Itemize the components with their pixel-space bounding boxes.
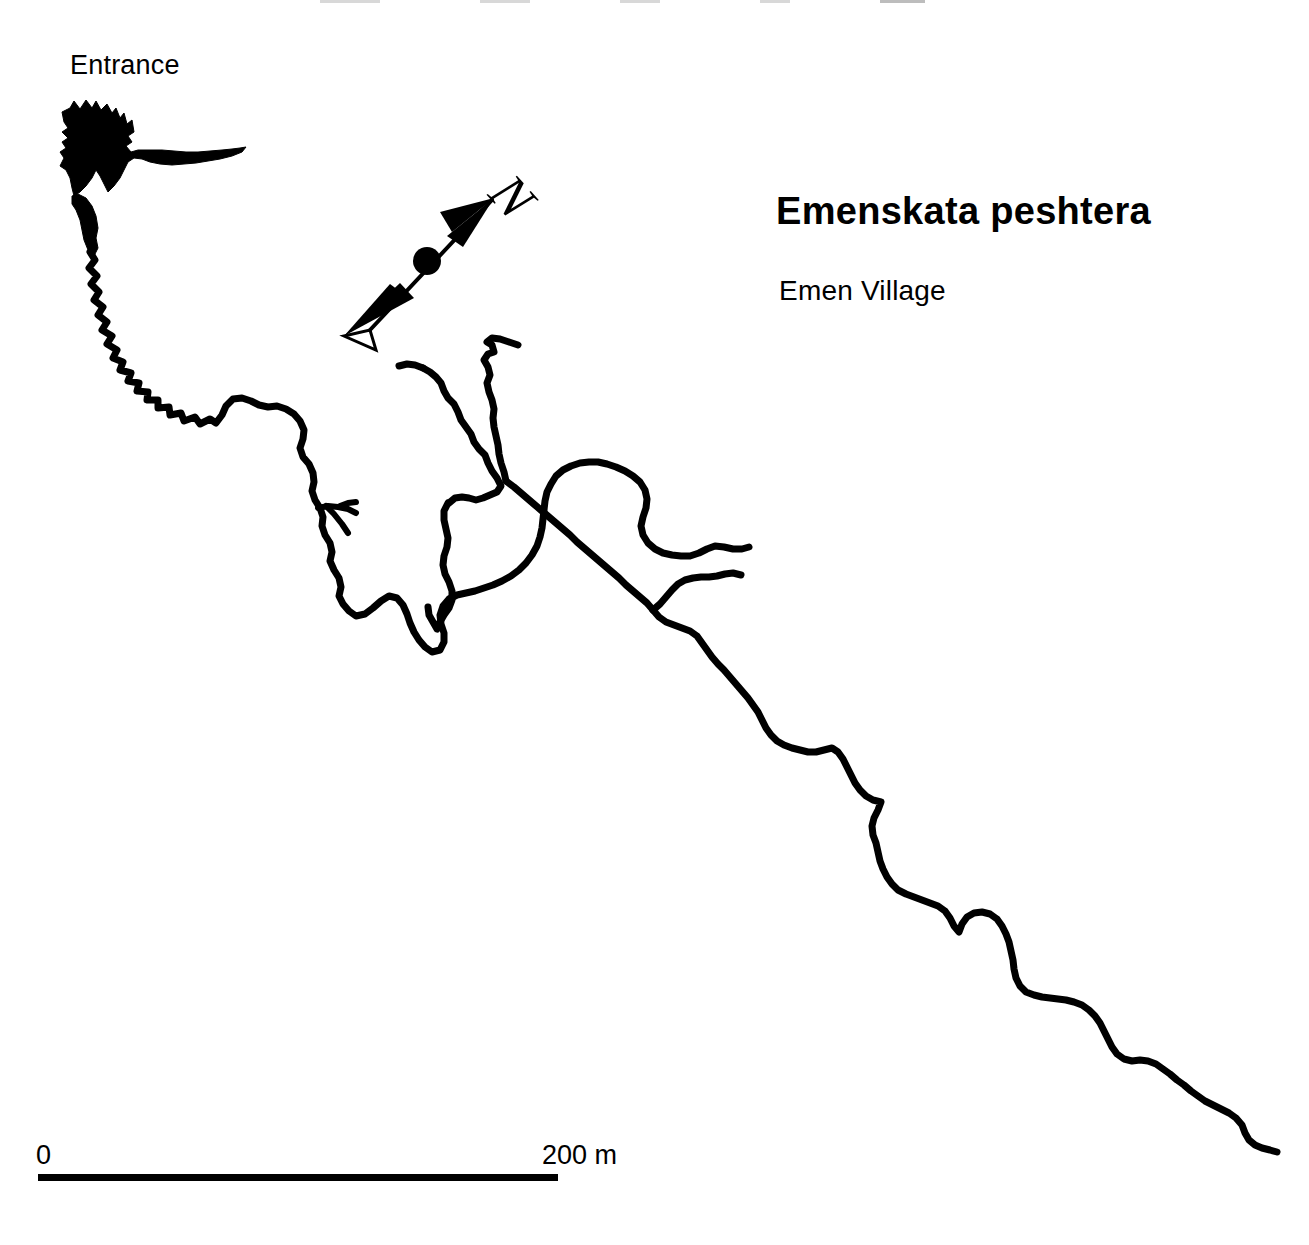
compass-centre-dot <box>413 247 441 275</box>
scale-start-label: 0 <box>36 1142 51 1169</box>
compass-north-letter: N <box>477 162 548 232</box>
entrance-chamber <box>60 100 246 256</box>
cave-map-canvas: N Entrance Emenskata peshtera Emen Villa… <box>0 0 1309 1245</box>
right-dead-end-stub <box>653 573 741 610</box>
page-subtitle: Emen Village <box>779 277 946 305</box>
main-passage-upper <box>89 252 749 652</box>
page-title: Emenskata peshtera <box>776 192 1151 230</box>
north-arrow-icon: N <box>344 162 549 350</box>
scale-bar-line <box>38 1174 558 1181</box>
central-descending-passage <box>506 481 653 610</box>
southeast-main-passage <box>653 610 1277 1152</box>
scale-end-label: 200 m <box>542 1142 617 1169</box>
cave-plan-drawing: N <box>0 0 1309 1245</box>
entrance-label: Entrance <box>70 52 180 79</box>
